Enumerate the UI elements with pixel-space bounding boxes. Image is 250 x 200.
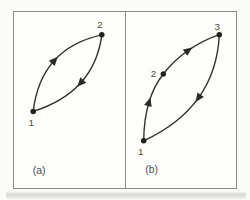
figure-frame: 1 2 (a) 1 2 3 (b) [13,11,237,189]
graph-node-2 [99,32,105,38]
edge-b-1-to-3-via-2 [144,35,220,141]
panel-a: 1 2 (a) [14,12,125,188]
edge-a-1-to-2 [33,35,102,112]
node-label: 3 [215,21,221,32]
figure-scan: 1 2 (a) 1 2 3 (b) [0,0,250,200]
node-label: 2 [97,19,103,30]
panel-caption-a: (a) [33,165,46,176]
panel-b: 1 2 3 (b) [125,12,236,188]
scan-shadow-artifact [6,191,246,199]
graph-node-3 [217,32,223,38]
digraph-a: 1 2 (a) [14,12,125,188]
graph-node-1 [141,138,147,144]
node-label: 1 [28,117,34,128]
node-label: 1 [138,146,143,157]
node-label: 2 [151,68,156,79]
panel-caption-b: (b) [145,164,158,175]
graph-node-2 [161,71,167,77]
arrowhead-icon [144,96,154,107]
digraph-b: 1 2 3 (b) [126,12,236,188]
edge-a-2-to-1 [33,35,102,112]
arrowhead-icon [183,44,195,56]
graph-node-1 [30,109,36,115]
